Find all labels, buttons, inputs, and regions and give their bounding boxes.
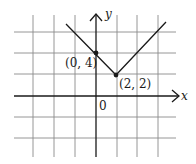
x-axis-label: x (181, 89, 188, 103)
point-2-2 (114, 73, 119, 78)
point-0-4 (94, 51, 99, 56)
y-axis-label: y (104, 7, 112, 21)
axes (14, 14, 179, 157)
function-graph: (0, 4) (2, 2) 0 x y (0, 0, 196, 164)
origin-label: 0 (99, 99, 107, 113)
point-label-2-2: (2, 2) (119, 77, 151, 91)
point-label-0-4: (0, 4) (65, 56, 97, 70)
